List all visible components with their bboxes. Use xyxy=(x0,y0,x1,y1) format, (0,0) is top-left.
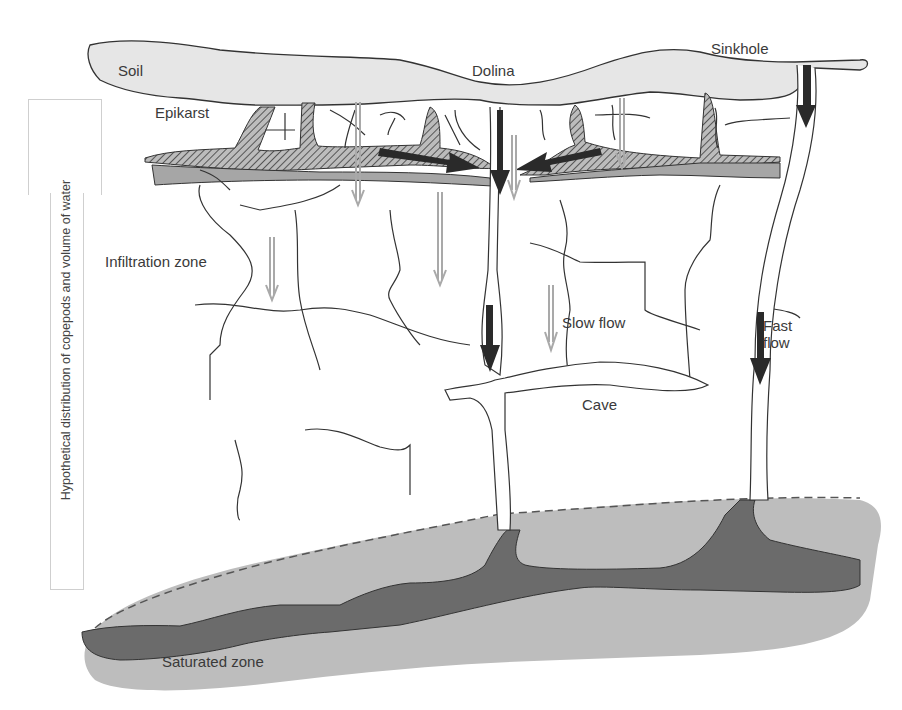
label-sinkhole: Sinkhole xyxy=(711,40,769,57)
label-dolina: Dolina xyxy=(472,62,515,79)
label-fast-flow-2: flow xyxy=(763,334,790,351)
label-soil: Soil xyxy=(118,62,143,79)
label-saturated-zone: Saturated zone xyxy=(162,653,264,670)
fast-flow-arrows xyxy=(378,65,816,385)
label-infiltration-zone: Infiltration zone xyxy=(105,253,207,270)
sinkhole-conduit xyxy=(750,65,816,500)
label-fast-flow-1: Fast xyxy=(763,317,792,334)
karst-diagram xyxy=(0,0,902,710)
label-slow-flow: Slow flow xyxy=(562,314,625,331)
label-cave: Cave xyxy=(582,396,617,413)
side-axis-label: Hypothetical distribution of copepods an… xyxy=(59,180,73,500)
label-epikarst: Epikarst xyxy=(155,104,209,121)
